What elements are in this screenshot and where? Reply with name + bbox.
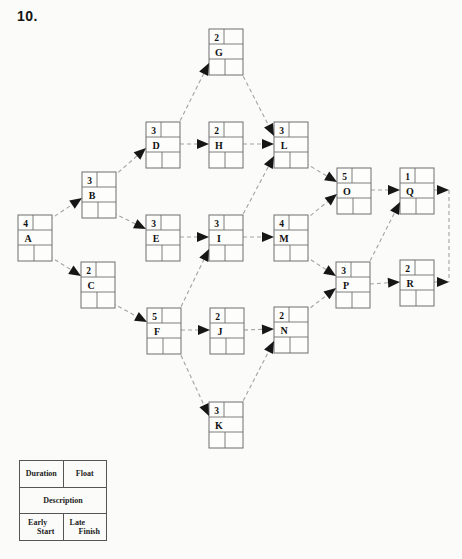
node-J-label: J — [218, 326, 223, 337]
node-D-duration: 3 — [151, 126, 156, 136]
node-H: 2H — [209, 122, 243, 168]
node-J: 2J — [210, 308, 244, 354]
arrowhead-edge-O-Q — [388, 185, 400, 195]
node-I: 3I — [209, 215, 243, 261]
legend-late-label: Late — [70, 519, 100, 527]
legend-description-label: Description — [43, 496, 83, 505]
node-R-duration: 2 — [405, 264, 410, 274]
node-R-label: R — [406, 278, 414, 289]
node-M: 4M — [274, 215, 308, 261]
legend: Duration Float Description Early Start L… — [19, 460, 107, 541]
node-O-label: O — [343, 186, 351, 197]
edge-G-L — [240, 70, 269, 125]
edge-D-G — [177, 74, 204, 127]
node-K-label: K — [215, 420, 223, 431]
arrowhead-edge-H-L — [262, 139, 274, 149]
edge-C-F — [112, 303, 136, 316]
arrowheads-layer — [68, 61, 449, 418]
node-R: 2R — [400, 260, 434, 306]
node-Q-label: Q — [406, 186, 414, 197]
edge-P-R — [370, 283, 388, 284]
node-B-duration: 3 — [87, 176, 92, 186]
edge-J-N — [244, 329, 262, 330]
node-I-label: I — [217, 233, 221, 244]
node-P: 3P — [336, 262, 370, 308]
nodes-layer: 4A3B2C3D3E5F2G2H3I2J3K3L4M2N5O3P1Q2R — [18, 29, 434, 448]
node-A: 4A — [18, 215, 52, 261]
node-O-duration: 5 — [342, 172, 347, 182]
arrowhead-edge-F-J — [198, 325, 210, 335]
node-B: 3B — [82, 172, 116, 218]
node-C: 2C — [81, 262, 115, 308]
arrowhead-edge-E-I — [197, 232, 209, 242]
node-G-duration: 2 — [214, 33, 219, 43]
arrowhead-edge-J-N — [262, 324, 274, 334]
node-F-duration: 5 — [152, 312, 157, 322]
node-G-label: G — [215, 47, 223, 58]
node-G: 2G — [209, 29, 243, 75]
node-L-duration: 3 — [279, 126, 284, 136]
node-O: 5O — [337, 168, 371, 214]
node-H-label: H — [215, 140, 223, 151]
edge-B-D — [113, 156, 137, 177]
legend-early-start-cell: Early Start — [20, 514, 63, 540]
edge-F-K — [178, 349, 204, 405]
node-L: 3L — [274, 122, 308, 168]
legend-duration-cell: Duration — [20, 461, 63, 487]
arrowhead-edge-I-M — [262, 232, 274, 242]
arrowhead-edge-R-finish — [437, 277, 449, 287]
node-B-label: B — [89, 190, 96, 201]
edge-I-L — [240, 167, 268, 220]
legend-description-cell: Description — [20, 487, 106, 514]
node-E: 3E — [146, 215, 180, 261]
node-E-label: E — [153, 233, 160, 244]
legend-float-cell: Float — [63, 461, 107, 487]
node-P-label: P — [343, 280, 349, 291]
node-N-label: N — [280, 325, 288, 336]
legend-early-label: Early — [28, 519, 54, 527]
node-A-label: A — [24, 233, 32, 244]
edge-P-Q — [367, 213, 395, 267]
node-M-duration: 4 — [279, 219, 284, 229]
edges-layer — [49, 70, 449, 407]
edge-K-N — [240, 352, 269, 407]
legend-top-row: Duration Float — [20, 461, 106, 487]
node-A-duration: 4 — [23, 219, 28, 229]
legend-duration-label: Duration — [26, 470, 57, 478]
page: 10. 4A3B2C3D3E5F2G2H3I2J3K3L4M2N5O3P1Q2R… — [0, 0, 462, 559]
node-M-label: M — [279, 233, 289, 244]
arrowhead-edge-D-H — [197, 139, 209, 149]
legend-start-label: Start — [37, 528, 54, 536]
node-N: 2N — [274, 307, 308, 353]
node-J-duration: 2 — [215, 312, 220, 322]
legend-bottom-row: Early Start Late Finish — [20, 513, 106, 540]
node-N-duration: 2 — [279, 311, 284, 321]
legend-late-finish-cell: Late Finish — [63, 514, 107, 540]
node-C-duration: 2 — [86, 266, 91, 276]
node-D: 3D — [146, 122, 180, 168]
arrowhead-edge-Q-finish — [437, 185, 449, 195]
node-F-label: F — [154, 326, 160, 337]
edge-F-I — [178, 260, 204, 313]
arrowhead-edge-P-R — [388, 277, 401, 288]
node-L-label: L — [281, 140, 288, 151]
legend-finish-label: Finish — [79, 528, 100, 536]
node-K: 3K — [209, 402, 243, 448]
node-F: 5F — [147, 308, 181, 354]
node-E-duration: 3 — [151, 219, 156, 229]
node-P-duration: 3 — [341, 266, 346, 276]
node-Q-duration: 1 — [405, 172, 410, 182]
node-K-duration: 3 — [214, 406, 219, 416]
node-Q: 1Q — [400, 168, 434, 214]
node-D-label: D — [152, 140, 159, 151]
node-I-duration: 3 — [214, 219, 219, 229]
legend-float-label: Float — [76, 470, 94, 478]
node-C-label: C — [87, 280, 94, 291]
node-H-duration: 2 — [214, 126, 219, 136]
